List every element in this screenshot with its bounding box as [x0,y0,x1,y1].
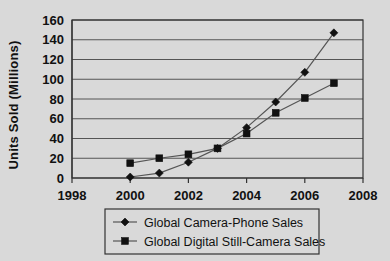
x-axis-tick-label: 2000 [116,188,145,203]
x-axis-tick-label: 1998 [58,188,87,203]
y-axis-tick-label: 0 [57,171,64,186]
y-axis-tick-label: 100 [42,72,64,87]
y-axis-tick-label: 20 [50,151,64,166]
x-axis-tick-label: 2006 [290,188,319,203]
legend-item-2[interactable]: Global Digital Still-Camera Sales [113,235,325,249]
y-axis-tick-label: 60 [50,111,64,126]
data-point [185,151,192,158]
data-point [331,80,338,87]
y-axis-title: Units Sold (Millions) [6,40,21,169]
chart-container: 020406080100120140160 199820002002200420… [0,0,390,261]
data-point [301,95,308,102]
y-axis-tick-label: 160 [42,13,64,28]
x-axis-tick-label: 2008 [349,188,378,203]
x-axis-tick-label: 2002 [174,188,203,203]
data-point [243,130,250,137]
chart-legend: Global Camera-Phone SalesGlobal Digital … [105,209,325,254]
data-point [156,155,163,162]
data-point [272,109,279,116]
data-point [214,145,221,152]
y-axis-tick-label: 40 [50,131,64,146]
line-chart: 020406080100120140160 199820002002200420… [0,0,390,261]
data-point [127,160,134,167]
legend-label: Global Digital Still-Camera Sales [144,235,325,249]
y-axis-tick-label: 80 [50,92,64,107]
y-axis-tick-label: 140 [42,32,64,47]
legend-label: Global Camera-Phone Sales [144,216,303,230]
y-axis-tick-label: 120 [42,52,64,67]
legend-marker [122,238,129,245]
x-axis-tick-label: 2004 [232,188,262,203]
